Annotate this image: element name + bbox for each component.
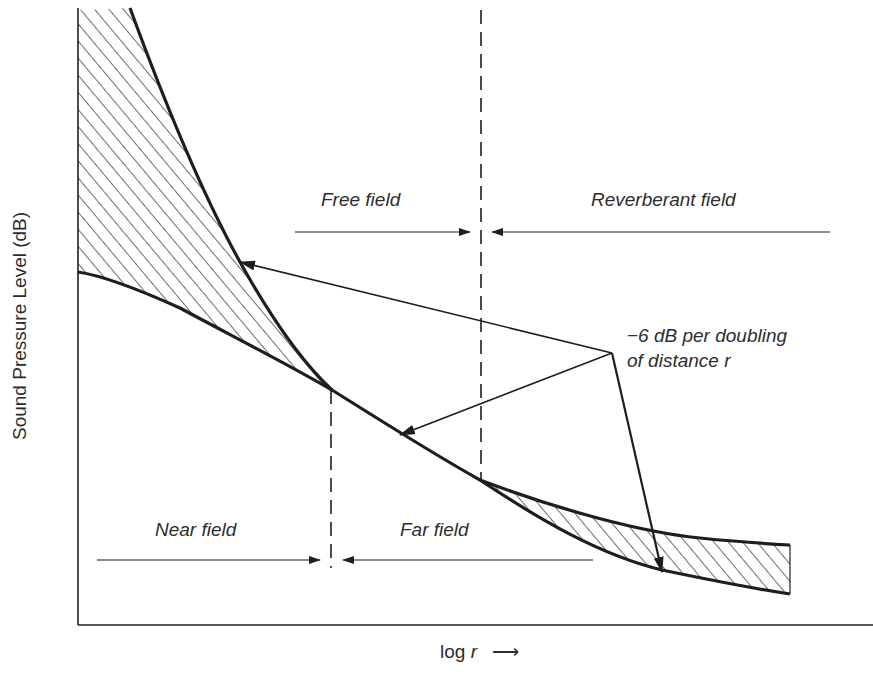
x-axis-label-text: log — [440, 641, 471, 662]
label-reverberant-field: Reverberant field — [591, 190, 736, 209]
label-far-field: Far field — [400, 520, 469, 539]
annotation-line-1: −6 dB per doubling — [627, 326, 787, 345]
near-field-hatched-region — [78, 8, 332, 390]
label-free-field: Free field — [321, 190, 400, 209]
pointer-arrow-near-field — [240, 262, 612, 353]
x-axis-variable: r — [471, 641, 477, 662]
pointer-arrow-far-field — [400, 353, 612, 435]
label-near-field: Near field — [155, 520, 236, 539]
right-arrow-icon: ⟶ — [492, 641, 519, 662]
y-axis-label: Sound Pressure Level (dB) — [10, 212, 29, 440]
annotation-line-2: of distance r — [627, 351, 731, 370]
x-axis-label: log r ⟶ — [440, 642, 519, 661]
